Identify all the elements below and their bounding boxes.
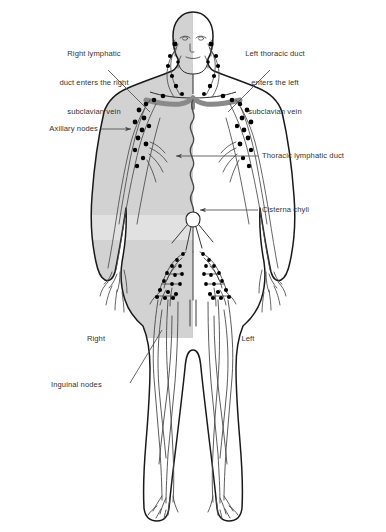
label-right-lymphatic-duct-line3: subclavian vein (28, 107, 160, 117)
label-right-lymphatic-duct-line1: Right lymphatic (28, 49, 160, 59)
label-cisterna-chyli: Cisterna chyli (262, 205, 352, 215)
label-left-thoracic-duct-line2: enters the left (212, 78, 338, 88)
label-left-thoracic-duct-line3: subclavian vein (212, 107, 338, 117)
label-right-lymphatic-duct: Right lymphatic duct enters the right su… (28, 30, 160, 126)
label-axillary-nodes: Axillary nodes (18, 124, 98, 134)
label-right-lymphatic-duct-line2: duct enters the right (28, 78, 160, 88)
label-side-left: Left (228, 334, 268, 344)
label-left-thoracic-duct-line1: Left thoracic duct (212, 49, 338, 59)
label-thoracic-lymphatic-duct: Thoracic lymphatic duct (262, 151, 382, 161)
label-side-right: Right (76, 334, 116, 344)
label-left-thoracic-duct: Left thoracic duct enters the left subcl… (212, 30, 338, 126)
label-inguinal-nodes: Inguinal nodes (51, 380, 141, 390)
leader-inguinal-nodes (130, 330, 162, 383)
